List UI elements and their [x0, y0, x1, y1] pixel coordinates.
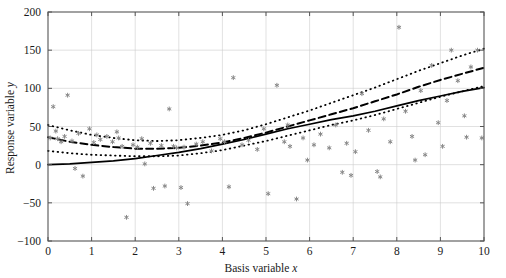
y-tick-label: −50	[23, 197, 41, 209]
x-tick-label: 2	[132, 245, 138, 257]
x-tick-label: 9	[438, 245, 444, 257]
y-tick-label: 200	[24, 6, 42, 18]
y-tick-label: −100	[17, 235, 41, 247]
y-tick-label: 150	[24, 44, 42, 56]
y-tick-label: 0	[35, 159, 41, 171]
scatter-plot-figure: 012345678910 −100−50050100150200 Basis v…	[0, 0, 506, 278]
y-tick-label: 100	[24, 82, 42, 94]
x-tick-label: 8	[394, 245, 400, 257]
x-tick-label: 10	[478, 245, 490, 257]
x-tick-label: 3	[176, 245, 182, 257]
x-tick-label: 5	[263, 245, 269, 257]
y-tick-label: 50	[30, 121, 42, 133]
figure-container: 012345678910 −100−50050100150200 Basis v…	[0, 0, 506, 278]
x-tick-label: 6	[307, 245, 313, 257]
x-tick-label: 1	[89, 245, 95, 257]
x-tick-label: 7	[350, 245, 356, 257]
y-axis-title: Response variable y	[4, 81, 17, 174]
x-axis-title: Basis variable x	[225, 262, 299, 274]
x-tick-label: 0	[45, 245, 51, 257]
plot-background	[0, 0, 506, 278]
x-tick-label: 4	[220, 245, 226, 257]
